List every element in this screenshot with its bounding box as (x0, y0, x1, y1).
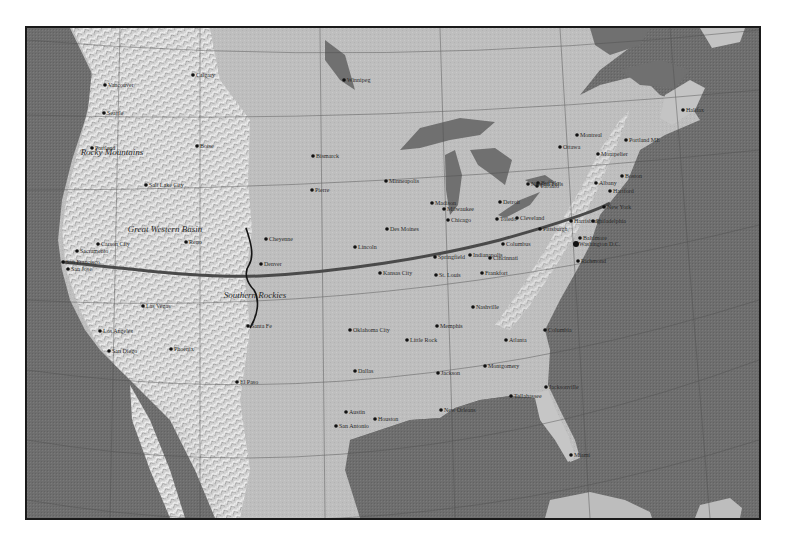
city-label: St. Louis (439, 272, 461, 278)
city-label: Halifax (686, 107, 704, 113)
city-dot-icon (430, 201, 434, 205)
city-label: Denver (264, 261, 282, 267)
city-marker[interactable]: San Antonio (334, 423, 369, 429)
city-marker[interactable]: Memphis (435, 323, 463, 329)
city-marker[interactable]: Madison (430, 200, 456, 206)
city-dot-icon (495, 217, 499, 221)
city-label: Austin (349, 409, 365, 415)
city-marker[interactable]: Columbia (543, 327, 572, 333)
city-marker[interactable]: Cheyenne (264, 236, 293, 242)
city-dot-icon (107, 349, 111, 353)
city-marker[interactable]: Kansas City (378, 270, 412, 276)
city-marker[interactable]: Oklahoma City (348, 327, 390, 333)
city-marker[interactable]: Bismarck (311, 153, 339, 159)
city-label: Niagara Falls (531, 181, 564, 187)
city-label: Portland ME (629, 137, 660, 143)
city-marker[interactable]: Los Angeles (98, 328, 133, 334)
city-marker[interactable]: Frankfort (480, 270, 508, 276)
city-marker[interactable]: Winnipeg (342, 77, 370, 83)
city-dot-icon (526, 182, 530, 186)
city-marker[interactable]: Washington D.C. (573, 241, 621, 247)
city-label: Little Rock (410, 337, 437, 343)
city-marker[interactable]: Vancouver (103, 82, 133, 88)
city-marker[interactable]: Tallahassee (509, 393, 542, 399)
city-marker[interactable]: Montpelier (596, 151, 627, 157)
city-marker[interactable]: Pittsburgh (538, 226, 567, 232)
city-dot-icon (446, 218, 450, 222)
city-marker[interactable]: Philadelphia (591, 218, 626, 224)
city-label: Cincinnati (493, 255, 518, 261)
city-label: San Jose (71, 266, 92, 272)
city-marker[interactable]: Nashville (471, 304, 499, 310)
city-marker[interactable]: Sacramento (75, 248, 108, 254)
city-dot-icon (334, 424, 338, 428)
city-label: Milwaukee (447, 206, 474, 212)
city-marker[interactable]: San Diego (107, 348, 137, 354)
city-marker[interactable]: New Orleans (439, 407, 476, 413)
city-marker[interactable]: Salt Lake City (144, 182, 183, 188)
city-label: Dallas (358, 368, 374, 374)
city-dot-icon (488, 256, 492, 260)
city-label: Cheyenne (269, 236, 293, 242)
city-marker[interactable]: Las Vegas (141, 303, 171, 309)
city-label: Phoenix (174, 346, 194, 352)
city-marker[interactable]: Jacksonville (544, 384, 579, 390)
city-dot-icon (436, 371, 440, 375)
city-marker[interactable]: Niagara Falls (526, 181, 564, 187)
city-label: Philadelphia (596, 218, 626, 224)
city-dot-icon (558, 145, 562, 149)
city-dot-icon (569, 219, 573, 223)
city-marker[interactable]: Portland ME (624, 137, 660, 143)
city-dot-icon (61, 260, 65, 264)
city-marker[interactable]: Milwaukee (442, 206, 474, 212)
city-marker[interactable]: Columbus (501, 241, 531, 247)
city-label: Montreal (580, 132, 602, 138)
city-marker[interactable]: New York (602, 204, 631, 210)
city-label: Memphis (440, 323, 463, 329)
city-marker[interactable]: Montreal (575, 132, 602, 138)
city-marker[interactable]: Minneapolis (384, 178, 419, 184)
city-dot-icon (75, 249, 79, 253)
city-label: New Orleans (444, 407, 476, 413)
city-marker[interactable]: San Francisco (61, 259, 100, 265)
city-dot-icon (620, 174, 624, 178)
city-dot-icon (602, 205, 606, 209)
city-dot-icon (594, 181, 598, 185)
city-marker[interactable]: Cleveland (515, 215, 544, 221)
city-label: Chicago (451, 217, 471, 223)
city-label: Washington D.C. (579, 241, 621, 247)
city-dot-icon (98, 329, 102, 333)
city-label: Seattle (107, 110, 124, 116)
city-marker[interactable]: Little Rock (405, 337, 437, 343)
city-dot-icon (310, 188, 314, 192)
city-marker[interactable]: Carson City (96, 241, 130, 247)
city-dot-icon (144, 183, 148, 187)
city-label: Cleveland (520, 215, 544, 221)
city-dot-icon (543, 328, 547, 332)
city-marker[interactable]: Montgomery (483, 363, 519, 369)
city-dot-icon (608, 189, 612, 193)
city-label: Winnipeg (347, 77, 370, 83)
city-label: Ottawa (563, 144, 581, 150)
city-label: Las Vegas (146, 303, 171, 309)
city-marker[interactable]: Springfield (433, 254, 465, 260)
city-dot-icon (235, 380, 239, 384)
city-dot-icon (342, 78, 346, 82)
city-label: New York (607, 204, 631, 210)
city-marker[interactable]: Des Moines (385, 226, 419, 232)
city-marker[interactable]: San Jose (66, 266, 92, 272)
city-dot-icon (480, 271, 484, 275)
city-label: Boise (200, 143, 214, 149)
city-dot-icon (90, 146, 94, 150)
relief-map[interactable]: Great Western BasinRocky MountainsSouthe… (27, 28, 759, 518)
city-label: Frankfort (485, 270, 508, 276)
city-marker[interactable]: Hartford (608, 188, 633, 194)
city-marker[interactable]: St. Louis (434, 272, 461, 278)
city-marker[interactable]: Richmond (576, 258, 606, 264)
city-dot-icon (373, 417, 377, 421)
city-label: Oklahoma City (353, 327, 390, 333)
city-label: San Francisco (66, 259, 100, 265)
city-marker[interactable]: Santa Fe (246, 323, 272, 329)
city-marker[interactable]: Cincinnati (488, 255, 518, 261)
city-dot-icon (141, 304, 145, 308)
